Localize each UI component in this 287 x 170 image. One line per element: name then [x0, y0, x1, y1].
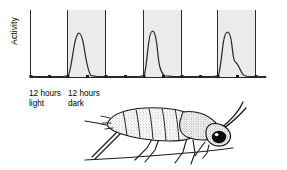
- baseline-tick: [86, 75, 89, 78]
- light-phase-label: 12 hours light: [29, 89, 61, 108]
- leg-fore-left: [175, 138, 187, 163]
- tip-spine: [101, 116, 110, 118]
- dark-phase-band: [68, 10, 106, 77]
- cockroach-illustration: [83, 100, 287, 170]
- dark-phase-duration: 12 hours: [68, 89, 100, 99]
- light-phase-duration: 12 hours: [29, 89, 61, 99]
- dark-phase-bands: [68, 10, 256, 77]
- activity-chart-canvas: [0, 0, 287, 88]
- cockroach-drawing-canvas: [83, 100, 287, 170]
- eye-highlight: [215, 133, 219, 136]
- y-axis-label: Activity: [9, 1, 19, 61]
- compound-eye: [212, 131, 226, 143]
- leg-hind-left: [95, 131, 123, 159]
- substrate-line: [85, 148, 233, 160]
- leg-hind-right: [92, 130, 119, 157]
- light-phase-condition: light: [29, 99, 61, 109]
- baseline-tick: [236, 75, 239, 78]
- maxillary-palp: [195, 142, 205, 156]
- circadian-activity-figure: Activity 12 hours light 12 hours dark: [0, 0, 287, 170]
- activity-chart: Activity: [0, 0, 287, 88]
- mouthparts: [195, 142, 209, 158]
